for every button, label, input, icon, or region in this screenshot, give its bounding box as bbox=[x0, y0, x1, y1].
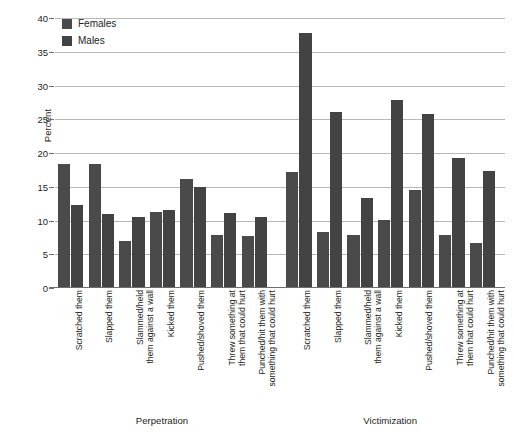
bar-females-8 bbox=[317, 232, 329, 288]
category-label-1: Slapped them bbox=[105, 290, 115, 406]
y-tick-label-35: 35 bbox=[4, 46, 48, 57]
bar-males-8 bbox=[330, 112, 342, 288]
legend-label-females: Females bbox=[78, 18, 116, 29]
y-tickmark-25 bbox=[49, 119, 54, 120]
y-tickmark-20 bbox=[49, 153, 54, 154]
group-label-perpetration: Perpetration bbox=[102, 415, 222, 426]
bar-males-7 bbox=[299, 33, 311, 288]
y-tickmark-30 bbox=[49, 86, 54, 87]
gridline-20 bbox=[55, 153, 505, 154]
y-tickmark-0 bbox=[49, 288, 54, 289]
y-axis-ticks: 0510152025303540 bbox=[0, 0, 48, 300]
legend-item-females: Females bbox=[62, 15, 116, 32]
bar-females-13 bbox=[470, 243, 482, 288]
y-tickmark-10 bbox=[49, 221, 54, 222]
bar-females-4 bbox=[180, 179, 192, 288]
bar-females-10 bbox=[378, 220, 390, 288]
category-label-2: Slammed/heldthem against a wall bbox=[136, 290, 155, 406]
category-label-12: Threw something atthem that could hurt bbox=[456, 290, 475, 406]
bar-females-5 bbox=[211, 235, 223, 288]
category-label-8: Slapped them bbox=[334, 290, 344, 406]
y-tickmark-15 bbox=[49, 187, 54, 188]
bar-females-11 bbox=[409, 190, 421, 288]
bar-males-13 bbox=[483, 171, 495, 288]
legend: Females Males bbox=[62, 15, 116, 49]
legend-swatch-females-icon bbox=[62, 19, 72, 29]
bar-females-1 bbox=[89, 164, 101, 288]
bar-females-0 bbox=[58, 164, 70, 288]
bar-males-3 bbox=[163, 210, 175, 288]
bar-females-2 bbox=[119, 241, 131, 288]
y-tickmark-35 bbox=[49, 52, 54, 53]
group-label-victimization: Victimization bbox=[330, 415, 450, 426]
bar-females-9 bbox=[347, 235, 359, 288]
y-tick-label-10: 10 bbox=[4, 215, 48, 226]
bar-males-6 bbox=[255, 217, 267, 288]
y-tickmark-5 bbox=[49, 254, 54, 255]
legend-swatch-males-icon bbox=[62, 36, 72, 46]
category-label-3: Kicked them bbox=[167, 290, 177, 406]
y-tick-label-5: 5 bbox=[4, 249, 48, 260]
legend-label-males: Males bbox=[78, 35, 105, 46]
gridline-0 bbox=[55, 288, 505, 289]
bar-males-2 bbox=[132, 217, 144, 288]
category-label-4: Pushed/shoved them bbox=[197, 290, 207, 406]
gridline-10 bbox=[55, 221, 505, 222]
y-tick-label-0: 0 bbox=[4, 283, 48, 294]
bar-males-9 bbox=[361, 198, 373, 288]
gridline-35 bbox=[55, 52, 505, 53]
bar-males-10 bbox=[391, 100, 403, 288]
plot-area bbox=[55, 18, 505, 288]
y-tick-label-25: 25 bbox=[4, 114, 48, 125]
gridline-15 bbox=[55, 187, 505, 188]
gridline-40 bbox=[55, 18, 505, 19]
category-label-11: Pushed/shoved them bbox=[425, 290, 435, 406]
gridline-30 bbox=[55, 86, 505, 87]
bar-males-4 bbox=[194, 187, 206, 288]
bar-chart: Percent 0510152025303540 Females Males S… bbox=[0, 0, 514, 445]
bar-males-1 bbox=[102, 214, 114, 288]
category-label-9: Slammed/heldthem against a wall bbox=[364, 290, 383, 406]
category-label-13: Punched/hit them withsomething that coul… bbox=[487, 290, 506, 406]
y-tickmark-40 bbox=[49, 18, 54, 19]
y-tick-label-40: 40 bbox=[4, 13, 48, 24]
category-label-7: Scratched them bbox=[303, 290, 313, 406]
bar-males-12 bbox=[452, 158, 464, 288]
category-labels: Scratched themSlapped themSlammed/heldth… bbox=[55, 290, 511, 408]
bar-males-5 bbox=[224, 213, 236, 288]
y-tick-label-20: 20 bbox=[4, 148, 48, 159]
x-axis-line bbox=[49, 287, 505, 288]
y-tick-label-30: 30 bbox=[4, 80, 48, 91]
bar-females-6 bbox=[242, 236, 254, 288]
bar-females-12 bbox=[439, 235, 451, 288]
category-label-6: Punched/hit them withsomething that coul… bbox=[258, 290, 277, 406]
bar-males-0 bbox=[71, 205, 83, 288]
category-label-5: Threw something atthem that could hurt bbox=[228, 290, 247, 406]
legend-item-males: Males bbox=[62, 32, 116, 49]
bar-females-7 bbox=[286, 172, 298, 288]
category-label-10: Kicked them bbox=[395, 290, 405, 406]
category-label-0: Scratched them bbox=[75, 290, 85, 406]
gridline-25 bbox=[55, 119, 505, 120]
bar-males-11 bbox=[422, 114, 434, 288]
y-tick-label-15: 15 bbox=[4, 181, 48, 192]
bar-females-3 bbox=[150, 212, 162, 288]
